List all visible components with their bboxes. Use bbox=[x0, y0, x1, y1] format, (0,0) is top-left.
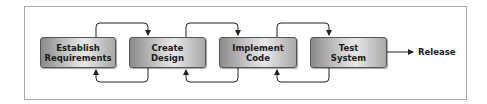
stage-label-line2: System bbox=[331, 53, 366, 63]
feedback-arrow-3 bbox=[277, 68, 329, 82]
stage-test-system: Test System bbox=[310, 37, 387, 68]
stage-label-line1: Test bbox=[339, 43, 359, 53]
feedback-arrow-2 bbox=[186, 68, 238, 82]
stage-label-line2: Code bbox=[246, 53, 270, 63]
stage-establish-requirements: Establish Requirements bbox=[40, 37, 116, 68]
forward-arrow-3 bbox=[277, 23, 329, 37]
release-label: Release bbox=[418, 47, 456, 57]
forward-arrow-2 bbox=[186, 23, 238, 37]
stage-label-line2: Design bbox=[151, 53, 184, 63]
stage-implement-code: Implement Code bbox=[219, 37, 297, 68]
stage-label-line1: Establish bbox=[56, 43, 100, 53]
stage-label-line1: Create bbox=[152, 43, 184, 53]
stage-create-design: Create Design bbox=[129, 37, 206, 68]
stage-label-line2: Requirements bbox=[44, 53, 111, 63]
feedback-arrow-1 bbox=[96, 68, 148, 82]
forward-arrow-1 bbox=[96, 23, 148, 37]
stage-label-line1: Implement bbox=[232, 43, 284, 53]
